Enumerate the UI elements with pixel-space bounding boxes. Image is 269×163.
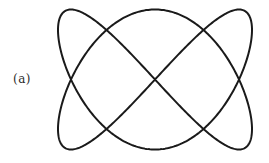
- lissajous-figure: [0, 0, 269, 163]
- lissajous-curve: [58, 10, 252, 150]
